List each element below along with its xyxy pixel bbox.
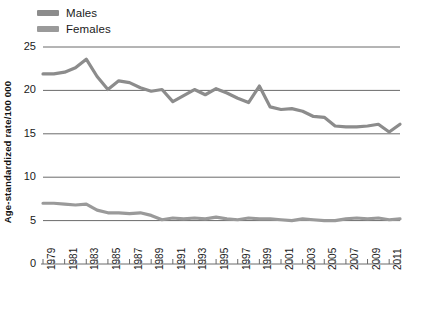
series-lines [43, 59, 400, 220]
chart-container: Males Females Age-standardized rate/100 … [0, 0, 421, 312]
series-line-males [43, 59, 400, 132]
chart-plot-area [0, 0, 421, 312]
x-axis [41, 259, 400, 264]
series-line-females [43, 203, 400, 220]
